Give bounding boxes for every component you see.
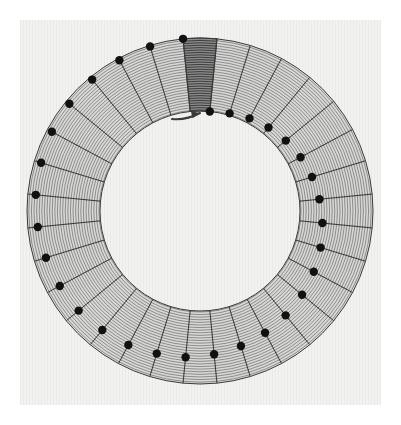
boundary-marker-dot-3 — [245, 114, 253, 122]
boundary-marker-dot-17 — [181, 353, 189, 361]
boundary-marker-dot-31 — [146, 42, 154, 50]
boundary-marker-dot-5 — [282, 136, 290, 144]
boundary-marker-dot-14 — [261, 329, 269, 337]
boundary-marker-dot-26 — [37, 159, 45, 167]
boundary-marker-dot-19 — [124, 341, 132, 349]
boundary-marker-dot-4 — [264, 123, 272, 131]
boundary-marker-dot-16 — [210, 350, 218, 358]
boundary-marker-dot-2 — [225, 109, 233, 117]
inner-circle-outline — [100, 111, 300, 311]
boundary-marker-dot-18 — [153, 349, 161, 357]
boundary-marker-dot-27 — [48, 128, 56, 136]
boundary-marker-dot-12 — [298, 291, 306, 299]
boundary-marker-dot-6 — [296, 153, 304, 161]
boundary-marker-dot-13 — [281, 311, 289, 319]
boundary-marker-dot-24 — [34, 223, 42, 231]
annulus-ring-diagram — [0, 0, 401, 425]
boundary-marker-dot-30 — [115, 56, 123, 64]
boundary-marker-dot-8 — [315, 195, 323, 203]
boundary-marker-dot-22 — [56, 282, 64, 290]
boundary-marker-dot-23 — [42, 254, 50, 262]
boundary-marker-dot-28 — [65, 100, 73, 108]
boundary-marker-dot-0 — [179, 35, 187, 43]
boundary-marker-dot-25 — [32, 191, 40, 199]
figure-root: Scanned technical figure: a hatched annu… — [0, 0, 401, 425]
boundary-marker-dot-1 — [206, 107, 214, 115]
boundary-marker-dot-15 — [237, 342, 245, 350]
boundary-marker-dot-7 — [308, 173, 316, 181]
boundary-marker-dot-21 — [74, 306, 82, 314]
boundary-marker-dot-29 — [88, 75, 96, 83]
boundary-marker-dot-20 — [98, 326, 106, 334]
boundary-marker-dot-10 — [316, 243, 324, 251]
boundary-marker-dot-9 — [318, 219, 326, 227]
boundary-marker-dot-11 — [310, 268, 318, 276]
